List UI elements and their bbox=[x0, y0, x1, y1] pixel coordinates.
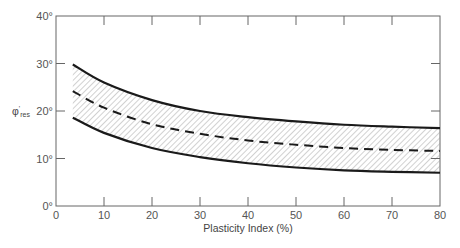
x-tick-label: 40 bbox=[242, 209, 254, 221]
x-tick-label: 0 bbox=[53, 209, 59, 221]
y-tick-label: 10° bbox=[36, 153, 53, 165]
x-tick-label: 50 bbox=[290, 209, 302, 221]
chart: 01020304050607080 0°10°20°30°40° Plastic… bbox=[0, 0, 460, 248]
y-axis-label: φ'res bbox=[12, 105, 30, 118]
y-tick-labels: 0°10°20°30°40° bbox=[36, 10, 53, 212]
y-tick-label: 0° bbox=[42, 200, 53, 212]
y-tick-label: 40° bbox=[36, 10, 53, 22]
x-tick-labels: 01020304050607080 bbox=[53, 209, 446, 221]
x-tick-label: 20 bbox=[146, 209, 158, 221]
x-tick-label: 80 bbox=[434, 209, 446, 221]
x-tick-label: 30 bbox=[194, 209, 206, 221]
x-tick-label: 60 bbox=[338, 209, 350, 221]
x-tick-label: 10 bbox=[98, 209, 110, 221]
x-axis-label: Plasticity Index (%) bbox=[203, 222, 292, 234]
y-tick-label: 20° bbox=[36, 105, 53, 117]
y-tick-label: 30° bbox=[36, 58, 53, 70]
x-tick-label: 70 bbox=[386, 209, 398, 221]
